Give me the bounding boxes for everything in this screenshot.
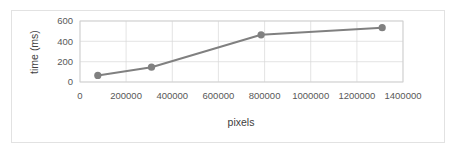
line-chart: 0 200 400 600 0 200000 400000 600000 800…	[0, 0, 456, 154]
data-point-4[interactable]	[379, 24, 386, 31]
y-tick-label-200: 200	[57, 56, 73, 67]
y-axis-tick-labels: 0 200 400 600	[57, 15, 73, 87]
x-tick-label-400000: 400000	[156, 90, 188, 101]
x-tick-label-1000000: 1000000	[292, 90, 329, 101]
data-point-3[interactable]	[258, 31, 265, 38]
x-axis-title: pixels	[228, 116, 255, 128]
x-tick-label-800000: 800000	[249, 90, 281, 101]
x-tick-label-1400000: 1400000	[385, 90, 422, 101]
x-tick-label-200000: 200000	[110, 90, 142, 101]
series-line-time	[98, 28, 382, 76]
data-point-2[interactable]	[148, 64, 155, 71]
y-tick-label-0: 0	[68, 76, 73, 87]
y-axis-title: time (ms)	[28, 30, 40, 74]
y-tick-label-600: 600	[57, 15, 73, 26]
x-tick-label-1200000: 1200000	[338, 90, 375, 101]
y-tick-label-400: 400	[57, 36, 73, 47]
x-axis-tick-labels: 0 200000 400000 600000 800000 1000000 12…	[77, 90, 421, 101]
x-tick-label-0: 0	[77, 90, 82, 101]
data-point-1[interactable]	[94, 72, 101, 79]
series-markers	[94, 24, 386, 79]
x-tick-label-600000: 600000	[203, 90, 235, 101]
